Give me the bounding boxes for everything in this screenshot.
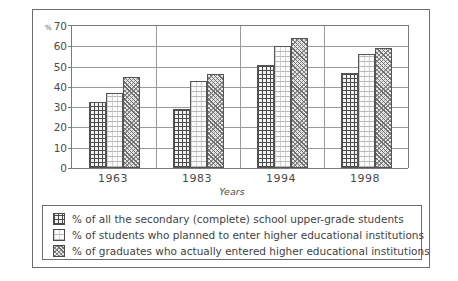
legend-swatch-diagonal-icon [53,245,65,257]
bar-1963-series-1 [89,102,106,168]
legend-item-3: % of graduates who actually entered high… [53,243,430,259]
y-tick-60: 60 [41,41,67,51]
x-axis-title: Years [33,186,431,197]
y-tick-30: 30 [41,102,67,112]
y-tick-40: 40 [41,82,67,92]
legend-label-3: % of graduates who actually entered high… [72,245,430,257]
x-tick-1998: 1998 [323,172,407,185]
legend-item-2: % of students who planned to enter highe… [53,227,424,243]
bar-1998-series-3 [375,48,392,168]
y-tick-10: 10 [41,143,67,153]
legend-label-2: % of students who planned to enter highe… [72,229,424,241]
bar-chart: % 70 60 50 40 30 20 10 0 [33,10,431,196]
bar-1998-series-2 [358,54,375,168]
legend-swatch-cross-hatch-icon [53,213,65,225]
x-tick-1983: 1983 [155,172,239,185]
y-tick-0: 0 [41,163,67,173]
legend-swatch-dotted-icon [53,229,65,241]
y-tick-20: 20 [41,122,67,132]
plot-right-border [408,25,409,168]
bar-1994-series-2 [274,46,291,168]
bar-1983-series-1 [173,109,190,168]
bar-1963-series-2 [106,93,123,168]
y-tick-50: 50 [41,62,67,72]
y-axis-tick-labels: 70 60 50 40 30 20 10 0 [39,10,67,196]
bar-1994-series-1 [257,65,274,168]
bar-1998-series-1 [341,73,358,168]
bar-1983-series-3 [207,74,224,168]
plot-area [71,26,408,169]
y-tick-70: 70 [41,21,67,31]
legend-label-1: % of all the secondary (complete) school… [72,213,404,225]
bar-1994-series-3 [291,38,308,168]
bar-1983-series-2 [190,81,207,168]
bar-1963-series-3 [123,77,140,168]
x-tick-1994: 1994 [239,172,323,185]
legend-item-1: % of all the secondary (complete) school… [53,211,404,227]
chart-frame: % 70 60 50 40 30 20 10 0 [32,9,430,268]
x-tick-1963: 1963 [71,172,155,185]
chart-legend: % of all the secondary (complete) school… [42,205,422,260]
